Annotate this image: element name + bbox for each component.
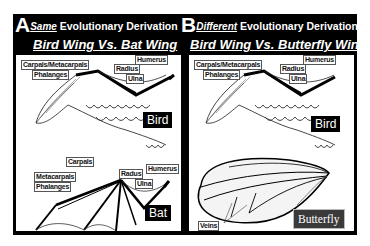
label-bird-ulna: Ulna [289, 74, 307, 84]
panel-b-qualifier: Different [196, 21, 237, 32]
panel-a-diagram: Carpals/Metacarpals Phalanges Radius Uln… [16, 55, 181, 231]
panel-a-letter: A [15, 13, 30, 36]
label-bird-phalanges: Phalanges [32, 70, 69, 80]
label-bat-phalanges: Phalanges [34, 182, 71, 192]
label-bat-carpals: Carpals [66, 157, 94, 167]
label-bat-metacarpals: Metacarpals [34, 172, 76, 182]
label-bat-ulna: Ulna [135, 179, 153, 189]
label-bird-carpals-metacarpals: Carpals/Metacarpals [21, 60, 89, 70]
label-bird-radius: Radius [280, 64, 306, 74]
label-bird-carpals-metacarpals: Carpals/Metacarpals [194, 60, 262, 70]
panel-b-diagram: Carpals/Metacarpals Phalanges Radius Uln… [189, 55, 354, 231]
panel-b-heading-text: Evolutionary Derivation [237, 20, 358, 32]
label-bat-radius: Radus [119, 169, 143, 179]
butterfly-tag: Butterfly [293, 209, 345, 229]
panel-b-subtitle: Bird Wing Vs. Butterfly Wing [190, 37, 367, 52]
bird-butterfly-wing-illustration [189, 55, 354, 231]
label-bird-humerus: Humerus [135, 55, 168, 65]
panel-a-subtitle: Bird Wing Vs. Bat Wing [33, 37, 177, 52]
label-bird-phalanges: Phalanges [203, 70, 240, 80]
panel-a-heading-text: Evolutionary Derivation [57, 20, 178, 32]
label-bat-humerus: Humerus [146, 164, 179, 174]
label-bird-ulna: Ulna [126, 74, 144, 84]
label-veins: Veins [198, 221, 219, 231]
panel-b-letter: B [181, 13, 196, 36]
label-bird-humerus: Humerus [303, 55, 336, 65]
panel-a-heading: ASame Evolutionary Derivation [15, 16, 178, 34]
panel-a-qualifier: Same [30, 21, 57, 32]
bat-tag: Bat [145, 205, 171, 221]
bird-tag: Bird [311, 116, 340, 132]
bird-tag: Bird [143, 112, 172, 128]
label-bird-radius: Radius [114, 64, 140, 74]
panel-b-heading: BDifferent Evolutionary Derivation [181, 16, 358, 34]
